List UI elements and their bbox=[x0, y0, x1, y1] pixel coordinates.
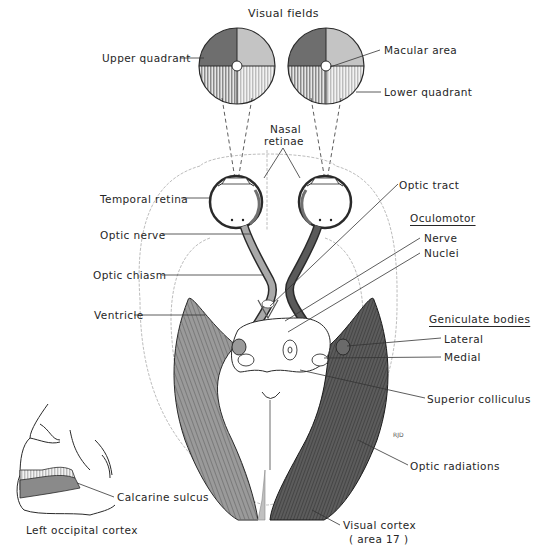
label-optic-radiations: Optic radiations bbox=[410, 460, 500, 472]
visual-pathway-figure: Visual fields Upper quadrant Macular are… bbox=[0, 0, 534, 553]
label-nasal: Nasal bbox=[270, 123, 301, 135]
label-geniculate-bodies: Geniculate bodies bbox=[429, 313, 530, 325]
label-lower-quadrant: Lower quadrant bbox=[384, 86, 472, 98]
label-retinae: retinae bbox=[264, 135, 304, 147]
left-visual-field-disc bbox=[199, 28, 275, 104]
left-occipital-cortex-inset bbox=[17, 404, 115, 515]
right-visual-field-disc bbox=[288, 28, 364, 104]
label-optic-tract: Optic tract bbox=[399, 179, 459, 191]
label-upper-quadrant: Upper quadrant bbox=[102, 52, 191, 64]
label-medial: Medial bbox=[444, 351, 481, 363]
label-temporal-retina: Temporal retina bbox=[100, 193, 188, 205]
label-oculomotor: Oculomotor bbox=[410, 212, 476, 224]
artist-initials: RJD bbox=[393, 431, 404, 438]
label-optic-nerve: Optic nerve bbox=[100, 229, 166, 241]
label-visual-cortex: Visual cortex bbox=[343, 519, 416, 531]
label-optic-chiasm: Optic chiasm bbox=[93, 269, 166, 281]
label-superior-colliculus: Superior colliculus bbox=[427, 393, 531, 405]
label-ventricle: Ventricle bbox=[94, 309, 144, 321]
left-eye bbox=[210, 176, 262, 228]
label-area-17: ( area 17 ) bbox=[349, 533, 408, 545]
visual-fields-title: Visual fields bbox=[248, 8, 319, 20]
label-nuclei: Nuclei bbox=[424, 247, 459, 259]
leader-lines bbox=[64, 50, 441, 525]
label-nerve: Nerve bbox=[424, 232, 457, 244]
label-left-occipital-cortex: Left occipital cortex bbox=[26, 524, 138, 536]
right-eye bbox=[299, 176, 351, 228]
label-macular-area: Macular area bbox=[384, 44, 457, 56]
label-calcarine-sulcus: Calcarine sulcus bbox=[117, 491, 209, 503]
label-lateral: Lateral bbox=[444, 333, 483, 345]
